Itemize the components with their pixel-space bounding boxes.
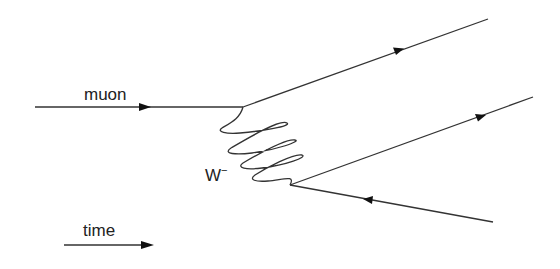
feynman-diagram: muon W− time [0, 0, 560, 269]
muon-label: muon [84, 86, 127, 103]
arrow-right-icon [475, 114, 486, 122]
outgoing-top-line [243, 19, 488, 107]
time-axis-arrow [64, 241, 154, 249]
arrow-left-icon [363, 196, 373, 204]
w-boson-label: W− [205, 165, 227, 184]
arrow-right-icon [139, 103, 151, 111]
time-label: time [83, 222, 115, 239]
incoming-muon-line [35, 103, 243, 111]
w-boson-symbol: W [205, 166, 221, 185]
arrow-right-icon [393, 48, 404, 56]
arrow-right-icon [141, 241, 154, 249]
outgoing-bottom-line [290, 185, 493, 222]
w-boson-wavy-line [220, 107, 303, 185]
outgoing-middle-line [290, 97, 533, 185]
w-boson-charge: − [221, 164, 227, 176]
